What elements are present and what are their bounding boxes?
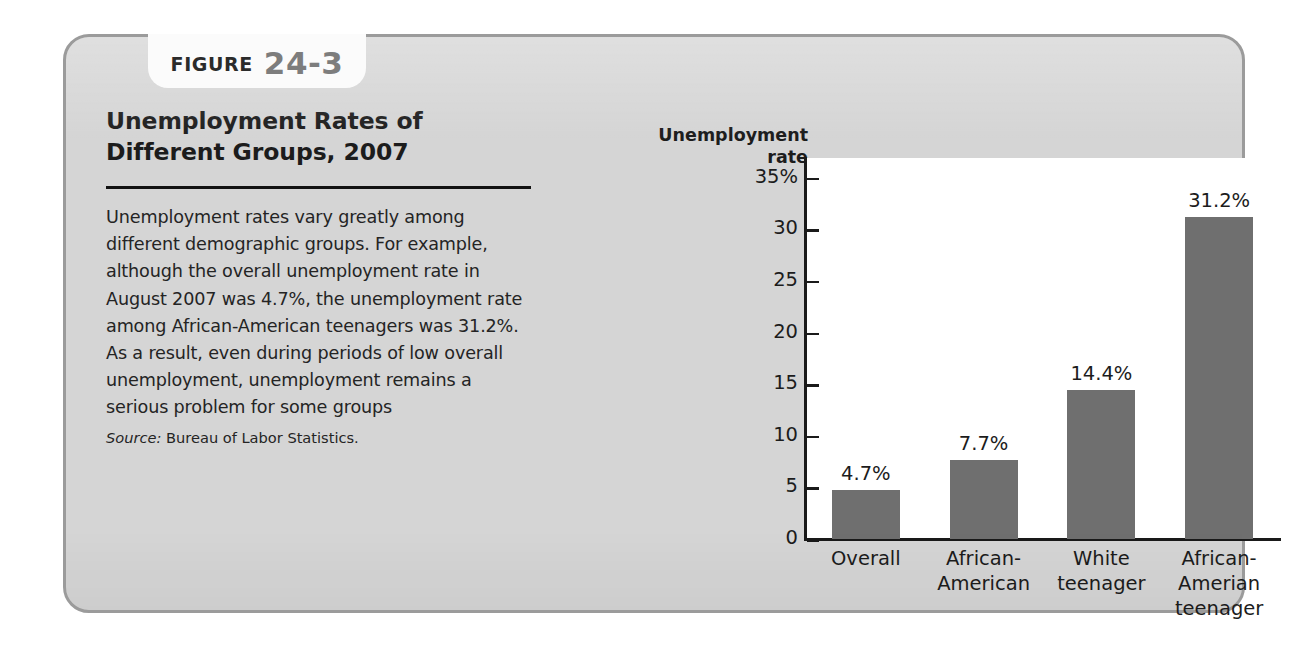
bar-value-label: 4.7% [841,462,891,485]
y-tick-label: 15 [773,371,798,394]
y-tick-label: 5 [786,474,798,497]
bar: 4.7% [832,490,900,539]
bar-group: 14.4% [1043,157,1161,539]
bar-value-label: 14.4% [1070,362,1132,385]
figure-number: 24-3 [264,42,344,81]
bar-chart: Unemployment rate 35%302520151050 4.7%7.… [741,124,1221,544]
bar: 7.7% [950,460,1018,539]
y-axis-title: Unemployment rate [648,124,808,168]
bar-group: 4.7% [807,157,925,539]
figure-number-tab: FIGURE 24-3 [148,34,366,88]
source-label: Source: [106,429,161,446]
bars-layer: 4.7%7.7%14.4%31.2% [807,157,1278,539]
bar: 31.2% [1185,217,1253,539]
figure-text-column: Unemployment Rates of Different Groups, … [106,106,536,448]
figure-title: Unemployment Rates of Different Groups, … [106,106,536,168]
figure-card: FIGURE 24-3 Unemployment Rates of Differ… [63,34,1245,613]
y-tick-label: 20 [773,320,798,343]
figure-label: FIGURE [171,48,253,75]
figure-page: FIGURE 24-3 Unemployment Rates of Differ… [0,0,1307,652]
bar: 14.4% [1067,390,1135,539]
y-tick-label: 30 [773,216,798,239]
x-category-label: Overall [807,546,925,571]
x-axis-category-labels: OverallAfrican- AmericanWhite teenagerAf… [807,546,1278,636]
figure-source: Source: Bureau of Labor Statistics. [106,428,536,448]
y-tick-label: 35% [755,165,798,188]
x-category-label: African- American [925,546,1043,596]
title-divider [106,186,531,189]
x-category-label: White teenager [1043,546,1161,596]
bar-group: 31.2% [1160,157,1278,539]
bar-group: 7.7% [925,157,1043,539]
y-tick-label: 0 [786,526,798,549]
y-tick-label: 10 [773,423,798,446]
y-tick-mark [807,539,819,542]
bar-value-label: 7.7% [959,432,1009,455]
x-category-label: African- Amerian teenager [1160,546,1278,621]
y-tick-label: 25 [773,268,798,291]
figure-description: Unemployment rates vary greatly among di… [106,204,534,422]
bar-value-label: 31.2% [1188,189,1250,212]
source-text: Bureau of Labor Statistics. [166,429,359,446]
